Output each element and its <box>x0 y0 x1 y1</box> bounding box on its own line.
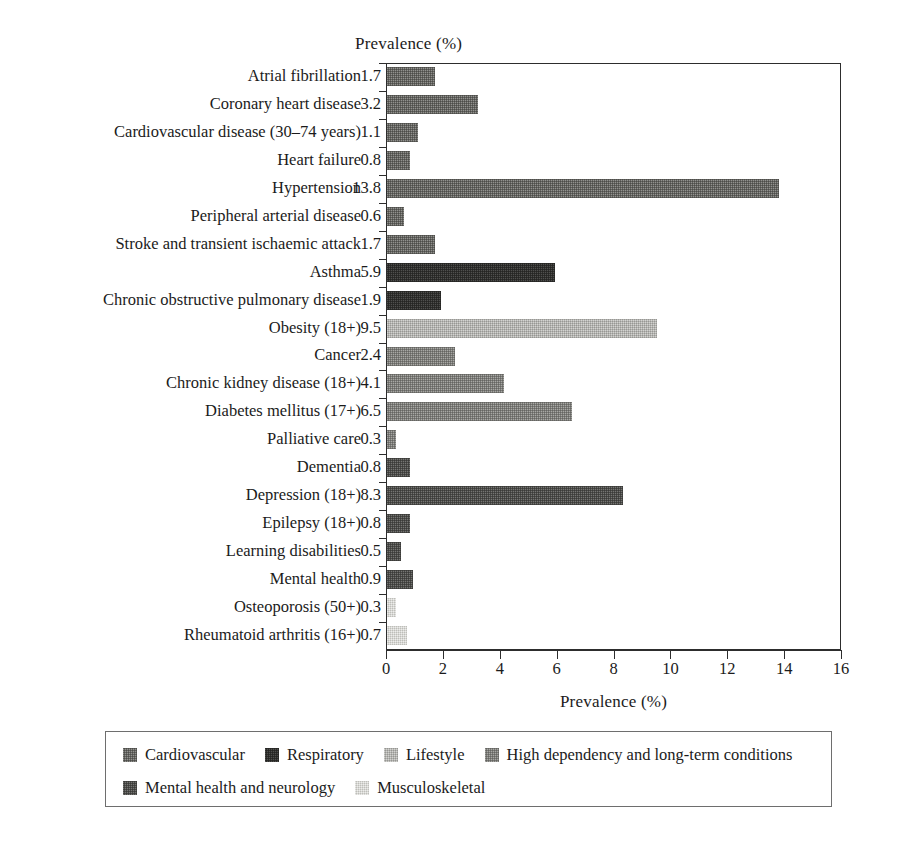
x-axis-title: Prevalence (%) <box>386 692 841 712</box>
legend-item-musculoskeletal[interactable]: Musculoskeletal <box>355 780 485 797</box>
y-axis-tick <box>379 370 387 371</box>
value-label: 0.3 <box>337 599 381 616</box>
category-label: Chronic obstructive pulmonary disease <box>103 292 361 309</box>
bar <box>387 151 410 170</box>
value-label: 8.3 <box>337 488 381 505</box>
chart-row: Palliative care0.3 <box>0 426 902 454</box>
chart-row: Stroke and transient ischaemic attack1.7 <box>0 231 902 259</box>
legend-label: Musculoskeletal <box>377 780 485 797</box>
value-label: 0.8 <box>337 152 381 169</box>
x-axis-tick <box>443 650 444 659</box>
value-label: 1.1 <box>337 124 381 141</box>
y-axis-tick <box>379 482 387 483</box>
value-label: 9.5 <box>337 320 381 337</box>
x-axis-tick-label: 8 <box>594 661 634 678</box>
x-axis-tick <box>557 650 558 659</box>
x-axis-tick <box>784 650 785 659</box>
x-axis-tick-label: 14 <box>764 661 804 678</box>
legend-label: Cardiovascular <box>145 747 245 764</box>
legend-box: CardiovascularRespiratoryLifestyleHigh d… <box>105 731 832 807</box>
chart-row: Rheumatoid arthritis (16+)0.7 <box>0 622 902 650</box>
chart-row: Dementia0.8 <box>0 454 902 482</box>
y-axis-tick <box>379 231 387 232</box>
y-axis-tick <box>379 566 387 567</box>
value-label: 1.9 <box>337 292 381 309</box>
legend-swatch-icon <box>265 748 279 762</box>
y-axis-tick <box>379 426 387 427</box>
value-label: 0.5 <box>337 544 381 561</box>
value-label: 3.2 <box>337 96 381 113</box>
legend-swatch-icon <box>384 748 398 762</box>
bar <box>387 123 418 142</box>
x-axis-tick-label: 12 <box>707 661 747 678</box>
bar <box>387 626 407 645</box>
x-axis-tick <box>386 650 387 659</box>
bar <box>387 374 504 393</box>
y-axis-tick <box>379 594 387 595</box>
chart-row: Peripheral arterial disease0.6 <box>0 203 902 231</box>
chart-row: Mental health0.9 <box>0 566 902 594</box>
y-axis-tick <box>379 538 387 539</box>
legend-swatch-icon <box>123 781 137 795</box>
value-label: 4.1 <box>337 376 381 393</box>
bar <box>387 235 435 254</box>
chart-row: Cancer2.4 <box>0 343 902 371</box>
category-label: Peripheral arterial disease <box>191 208 361 225</box>
category-label: Cardiovascular disease (30–74 years) <box>114 124 361 141</box>
value-label: 0.6 <box>337 208 381 225</box>
bar <box>387 570 413 589</box>
value-label: 0.7 <box>337 627 381 644</box>
y-axis-tick <box>379 510 387 511</box>
chart-row: Chronic obstructive pulmonary disease1.9 <box>0 287 902 315</box>
x-axis-tick <box>841 650 842 659</box>
bar <box>387 291 441 310</box>
y-axis-tick <box>379 259 387 260</box>
value-label: 2.4 <box>337 348 381 365</box>
legend-item-cardiovascular[interactable]: Cardiovascular <box>123 747 245 764</box>
y-axis-tick <box>379 119 387 120</box>
bar <box>387 347 455 366</box>
bar <box>387 207 404 226</box>
chart-row: Heart failure0.8 <box>0 147 902 175</box>
category-label: Stroke and transient ischaemic attack <box>115 236 361 253</box>
legend-swatch-icon <box>485 748 499 762</box>
y-axis-tick <box>379 315 387 316</box>
bar <box>387 67 435 86</box>
bar <box>387 458 410 477</box>
bar <box>387 263 555 282</box>
legend-item-respiratory[interactable]: Respiratory <box>265 747 364 764</box>
x-axis-tick-label: 2 <box>423 661 463 678</box>
y-axis-tick <box>379 147 387 148</box>
legend-item-lifestyle[interactable]: Lifestyle <box>384 747 465 764</box>
bar <box>387 319 657 338</box>
value-label: 0.9 <box>337 572 381 589</box>
legend-label: High dependency and long-term conditions <box>507 747 793 764</box>
chart-row: Cardiovascular disease (30–74 years)1.1 <box>0 119 902 147</box>
chart-row: Obesity (18+)9.5 <box>0 315 902 343</box>
legend-row-1: CardiovascularRespiratoryLifestyleHigh d… <box>106 740 848 770</box>
legend-label: Respiratory <box>287 747 364 764</box>
category-label: Chronic kidney disease (18+) <box>166 376 361 393</box>
prevalence-bar-chart-figure: Prevalence (%) Atrial fibrillation1.7Cor… <box>0 0 902 845</box>
y-axis-tick <box>379 343 387 344</box>
value-label: 1.7 <box>337 68 381 85</box>
bar <box>387 402 572 421</box>
value-label: 1.7 <box>337 236 381 253</box>
x-axis-tick-label: 10 <box>650 661 690 678</box>
legend-label: Lifestyle <box>406 747 465 764</box>
y-axis-tick <box>379 622 387 623</box>
chart-row: Depression (18+)8.3 <box>0 482 902 510</box>
x-axis-tick-label: 6 <box>537 661 577 678</box>
x-axis-tick-label: 0 <box>366 661 406 678</box>
y-axis-tick <box>379 63 387 64</box>
legend-item-mental-health[interactable]: Mental health and neurology <box>123 780 335 797</box>
chart-row: Osteoporosis (50+)0.3 <box>0 594 902 622</box>
legend-swatch-icon <box>123 748 137 762</box>
legend-label: Mental health and neurology <box>145 780 335 797</box>
legend-item-high-dependency[interactable]: High dependency and long-term conditions <box>485 747 793 764</box>
value-label: 0.3 <box>337 432 381 449</box>
y-axis-tick <box>379 91 387 92</box>
category-label: Rheumatoid arthritis (16+) <box>184 627 361 644</box>
bar <box>387 542 401 561</box>
bar <box>387 95 478 114</box>
